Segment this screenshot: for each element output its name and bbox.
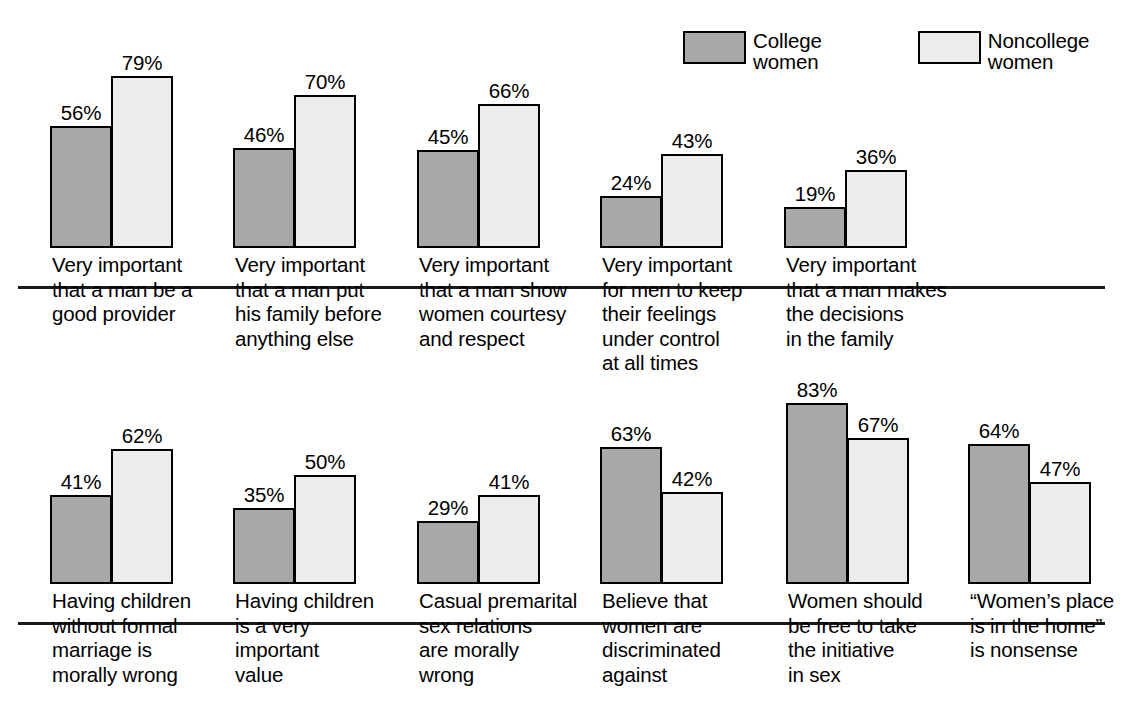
bar-noncollege[interactable]: 67% xyxy=(847,408,909,584)
bar-rect-college[interactable] xyxy=(968,444,1030,584)
category-label: Very important that a man be a good prov… xyxy=(52,253,227,327)
bar-noncollege[interactable]: 66% xyxy=(478,74,540,248)
bar-noncollege[interactable]: 70% xyxy=(294,65,356,248)
bar-group: 41%62% xyxy=(50,376,173,584)
bar-group: 63%42% xyxy=(600,376,723,584)
bar-rect-noncollege[interactable] xyxy=(661,154,723,248)
bar-rect-noncollege[interactable] xyxy=(478,495,540,584)
bar-college[interactable]: 56% xyxy=(50,96,112,248)
bar-college[interactable]: 41% xyxy=(50,465,112,584)
bar-value-label-noncollege: 41% xyxy=(478,471,540,493)
bar-noncollege[interactable]: 47% xyxy=(1029,452,1091,584)
bar-value-label-noncollege: 66% xyxy=(478,80,540,102)
bar-value-label-college: 64% xyxy=(968,420,1030,442)
bar-college[interactable]: 83% xyxy=(786,373,848,584)
chart-panel-row-1: 56%79%46%70%45%66%24%43%19%36% Very impo… xyxy=(0,0,1127,370)
bar-rect-college[interactable] xyxy=(784,207,846,248)
bar-value-label-college: 35% xyxy=(233,484,295,506)
bar-noncollege[interactable]: 79% xyxy=(111,46,173,248)
bar-college[interactable]: 19% xyxy=(784,177,846,248)
bar-college[interactable]: 63% xyxy=(600,417,662,584)
bar-group: 45%66% xyxy=(417,40,540,248)
category-label: “Women’s place is in the home” is nonsen… xyxy=(970,589,1127,663)
bar-rect-noncollege[interactable] xyxy=(847,438,909,584)
bar-noncollege[interactable]: 50% xyxy=(294,445,356,584)
bar-value-label-noncollege: 70% xyxy=(294,71,356,93)
bar-value-label-college: 63% xyxy=(600,423,662,445)
bar-noncollege[interactable]: 41% xyxy=(478,465,540,584)
bar-group: 24%43% xyxy=(600,40,723,248)
bar-group: 46%70% xyxy=(233,40,356,248)
bar-group: 29%41% xyxy=(417,376,540,584)
bar-rect-college[interactable] xyxy=(50,495,112,584)
bar-rect-college[interactable] xyxy=(50,126,112,248)
bar-value-label-noncollege: 67% xyxy=(847,414,909,436)
bar-value-label-noncollege: 50% xyxy=(294,451,356,473)
bar-noncollege[interactable]: 62% xyxy=(111,419,173,584)
bar-value-label-noncollege: 62% xyxy=(111,425,173,447)
bar-group: 64%47% xyxy=(968,376,1091,584)
category-label: Having children without formal marriage … xyxy=(52,589,227,687)
bar-rect-college[interactable] xyxy=(417,521,479,584)
category-label: Believe that women are discriminated aga… xyxy=(602,589,777,687)
bar-value-label-college: 29% xyxy=(417,497,479,519)
bar-value-label-college: 56% xyxy=(50,102,112,124)
bar-noncollege[interactable]: 36% xyxy=(845,140,907,248)
bar-value-label-college: 46% xyxy=(233,124,295,146)
category-label: Women should be free to take the initiat… xyxy=(788,589,963,687)
bar-group: 56%79% xyxy=(50,40,173,248)
bar-rect-noncollege[interactable] xyxy=(111,76,173,248)
bar-rect-college[interactable] xyxy=(600,447,662,584)
bar-value-label-noncollege: 42% xyxy=(661,468,723,490)
bar-rect-college[interactable] xyxy=(786,403,848,584)
bar-college[interactable]: 29% xyxy=(417,491,479,584)
category-label: Having children is a very important valu… xyxy=(235,589,410,687)
bar-value-label-noncollege: 47% xyxy=(1029,458,1091,480)
bar-group: 19%36% xyxy=(784,40,907,248)
plot-area-row-1: 56%79%46%70%45%66%24%43%19%36% xyxy=(0,40,1127,248)
bar-value-label-college: 41% xyxy=(50,471,112,493)
bar-rect-college[interactable] xyxy=(233,148,295,248)
bar-rect-noncollege[interactable] xyxy=(478,104,540,248)
bar-value-label-college: 24% xyxy=(600,172,662,194)
chart-panel-row-2: 41%62%35%50%29%41%63%42%83%67%64%47% Hav… xyxy=(0,336,1127,721)
bar-chart-figure: College women Noncollege women 56%79%46%… xyxy=(0,0,1127,721)
bar-rect-college[interactable] xyxy=(600,196,662,248)
bar-rect-noncollege[interactable] xyxy=(111,449,173,584)
bar-rect-noncollege[interactable] xyxy=(661,492,723,584)
bar-rect-college[interactable] xyxy=(233,508,295,584)
bar-rect-noncollege[interactable] xyxy=(845,170,907,248)
bar-college[interactable]: 35% xyxy=(233,478,295,584)
bar-rect-noncollege[interactable] xyxy=(294,95,356,248)
bar-rect-noncollege[interactable] xyxy=(1029,482,1091,584)
bar-college[interactable]: 46% xyxy=(233,118,295,248)
bar-value-label-noncollege: 79% xyxy=(111,52,173,74)
bar-value-label-noncollege: 43% xyxy=(661,130,723,152)
bar-rect-college[interactable] xyxy=(417,150,479,248)
bar-value-label-noncollege: 36% xyxy=(845,146,907,168)
bar-value-label-college: 83% xyxy=(786,379,848,401)
bar-group: 83%67% xyxy=(786,376,909,584)
bar-value-label-college: 19% xyxy=(784,183,846,205)
bar-value-label-college: 45% xyxy=(417,126,479,148)
bar-college[interactable]: 45% xyxy=(417,120,479,248)
bar-college[interactable]: 64% xyxy=(968,414,1030,584)
bar-noncollege[interactable]: 43% xyxy=(661,124,723,248)
bar-college[interactable]: 24% xyxy=(600,166,662,248)
category-label: Casual premarital sex relations are mora… xyxy=(419,589,594,687)
bar-group: 35%50% xyxy=(233,376,356,584)
bar-rect-noncollege[interactable] xyxy=(294,475,356,584)
plot-area-row-2: 41%62%35%50%29%41%63%42%83%67%64%47% xyxy=(0,376,1127,584)
bar-noncollege[interactable]: 42% xyxy=(661,462,723,584)
